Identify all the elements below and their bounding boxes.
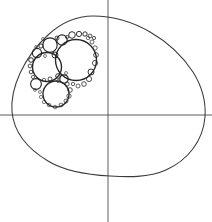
packing-circle (71, 82, 74, 85)
circle-packing-figure (0, 0, 212, 222)
outer-oval-group (12, 16, 205, 177)
packing-circle (43, 38, 57, 52)
packing-circle (86, 76, 91, 81)
packing-circle (31, 75, 34, 78)
packing-circle (39, 95, 42, 98)
packing-circle (76, 84, 80, 88)
packing-circle (83, 32, 87, 36)
packing-circle (92, 36, 95, 39)
packing-circle (28, 64, 32, 68)
packing-circle (76, 31, 81, 36)
circle-packing-group (28, 31, 98, 108)
packing-circle (88, 34, 92, 38)
packing-circle (39, 91, 42, 94)
packing-circle (90, 40, 94, 44)
packing-circle (82, 82, 87, 87)
axes-group (0, 0, 212, 222)
packing-circle (44, 55, 47, 58)
packing-circle (69, 32, 76, 39)
packing-circle (48, 77, 52, 81)
oval-boundary-curve (12, 16, 205, 177)
packing-circle (29, 58, 34, 63)
figure-container (0, 0, 212, 222)
packing-circle (29, 70, 33, 74)
packing-circle (65, 72, 68, 75)
packing-circle (31, 79, 42, 90)
